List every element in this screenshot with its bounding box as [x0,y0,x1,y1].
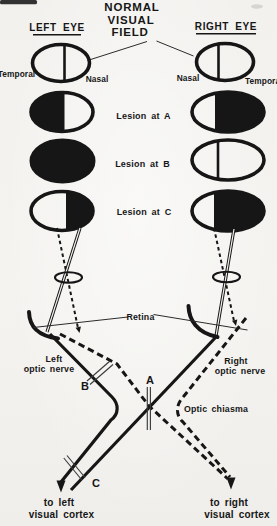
title-pointer-line-right [157,41,194,56]
figure-title-line-3: FIELD [111,26,148,38]
left-ray-double-line-core [47,228,80,332]
left-optic-nerve-label-line2: optic nerve [24,364,75,374]
site-marker-b: B [81,380,89,392]
right-eye-header: RIGHT EYE [195,21,257,32]
right-cortex-arrow-icon [227,478,236,490]
temporal-label-right: Temporal [245,76,277,86]
retina-label: Retina [126,312,154,322]
title-pointer-line-left [88,42,148,61]
lesion-c-label: Lesion at C [117,207,172,217]
site-marker-a: A [146,374,154,386]
lesion-a-left-eye-black-half [29,91,65,133]
right-optic-nerve-label-line2: optic nerve [215,366,266,376]
right-ray-arrowhead-icon [232,320,237,327]
left-cortex-arrow-icon [57,481,66,493]
lesion-b-label: Lesion at B [115,159,170,169]
right-cortex-label-line1: to right [210,497,249,508]
lesion-site-c-tick [67,456,85,478]
lesion-a-right-eye-black-half [215,90,266,134]
site-marker-c: C [92,477,100,489]
right-cortex-label-line2: visual cortex [204,509,270,520]
right-optic-nerve-label-line1: Right [224,356,247,366]
left-eye-header: LEFT EYE [29,22,85,33]
left-cortex-label-line2: visual cortex [29,509,95,520]
optic-chiasma-label: Optic chiasma [184,404,248,414]
right-retina-arc [189,306,218,337]
lesion-a-label: Lesion at A [116,111,171,121]
nasal-label-right: Nasal [177,73,200,83]
retina-pointer-line-left [34,317,129,328]
lesion-site-b-tick [87,361,110,381]
figure-title-line-1: NORMAL [104,1,159,13]
scan-speck [251,4,263,8]
left-cortex-label-line1: to left [44,497,75,508]
lesion-c-right-eye-black-half [214,189,266,233]
figure-title-line-2: VISUAL [108,14,155,26]
left-optic-nerve-label-line1: Left [46,354,63,364]
textbook-diagram-page: NORMAL VISUAL FIELD LEFT EYE RIGHT EYE T… [0,0,277,526]
normal-left-eye-field [33,45,90,82]
lesion-site-b-tick-2 [90,365,113,385]
lesion-b-left-eye-field [31,140,94,182]
lesion-b-right-eye-field [192,140,264,180]
scan-smudge [0,0,37,4]
visual-pathway-diagram: NORMAL VISUAL FIELD LEFT EYE RIGHT EYE T… [0,0,277,526]
right-eye-crossing-fiber-solid [71,337,216,490]
temporal-label-left: Temporal [0,69,35,79]
nasal-label-left: Nasal [86,74,109,84]
left-ray-arrowhead-icon [76,327,81,333]
